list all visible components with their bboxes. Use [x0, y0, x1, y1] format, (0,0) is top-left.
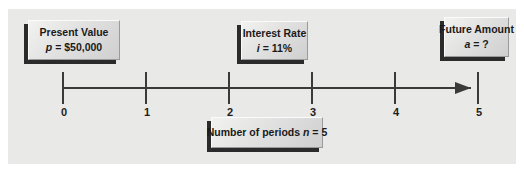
- timeline-figure: 0 1 2 3 4 5 Present Value p = $50,000 In…: [0, 0, 524, 177]
- timeline-axis-line: [62, 87, 471, 89]
- future-amount-equation: a = ?: [464, 38, 488, 51]
- tick-label-0: 0: [49, 106, 79, 118]
- interest-rate-amount: 11%: [272, 42, 292, 54]
- callout-interest-rate: Interest Rate i = 11%: [241, 21, 308, 60]
- number-of-periods-equation: Number of periods n = 5: [207, 126, 328, 139]
- future-amount-equals: =: [473, 38, 479, 50]
- tick-label-1: 1: [132, 106, 162, 118]
- tick-mark-2: [228, 72, 230, 104]
- future-amount-variable: a: [464, 38, 470, 50]
- timeline-arrow-icon: [455, 82, 471, 94]
- number-of-periods-equals: =: [312, 126, 318, 138]
- future-amount-title: Future Amount: [439, 23, 514, 36]
- present-value-title: Present Value: [40, 26, 109, 39]
- callout-number-of-periods: Number of periods n = 5: [211, 117, 323, 148]
- tick-mark-5: [477, 72, 479, 104]
- number-of-periods-variable: n: [303, 126, 309, 138]
- present-value-equation: p = $50,000: [46, 41, 102, 54]
- present-value-variable: p: [46, 41, 52, 53]
- tick-label-5: 5: [464, 106, 494, 118]
- interest-rate-variable: i: [257, 42, 260, 54]
- interest-rate-equals: =: [263, 42, 269, 54]
- tick-mark-3: [311, 72, 313, 104]
- callout-future-amount: Future Amount a = ?: [444, 17, 509, 57]
- number-of-periods-value: 5: [321, 126, 327, 138]
- present-value-amount: $50,000: [64, 41, 102, 53]
- interest-rate-equation: i = 11%: [257, 42, 292, 55]
- present-value-equals: =: [55, 41, 61, 53]
- tick-mark-1: [145, 72, 147, 104]
- future-amount-value: ?: [482, 38, 488, 50]
- tick-mark-0: [62, 72, 64, 104]
- tick-label-4: 4: [381, 106, 411, 118]
- callout-present-value: Present Value p = $50,000: [28, 20, 120, 60]
- interest-rate-title: Interest Rate: [243, 27, 307, 40]
- number-of-periods-label: Number of periods: [207, 126, 300, 138]
- tick-mark-4: [394, 72, 396, 104]
